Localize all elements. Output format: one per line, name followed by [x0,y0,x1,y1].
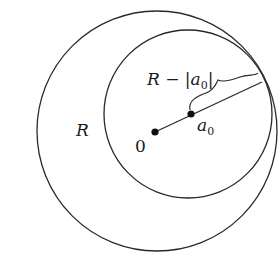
brace-label-prefix: R − | [147,69,191,89]
brace-label-main: a [191,69,201,89]
diagram-canvas: R 0 a0 R − |a0| [0,0,278,253]
a0-label: a0 [197,117,214,137]
a0-point [187,110,194,117]
a0-label-sub: 0 [207,125,214,138]
brace-label-suffix: | [208,69,214,89]
origin-point [151,128,158,135]
brace-label-sub: 0 [201,79,208,92]
diagram-figure [0,0,278,253]
brace-label: R − |a0| [147,71,213,91]
outer-radius-label: R [76,122,89,139]
a0-label-main: a [197,115,207,135]
origin-label: 0 [135,138,146,155]
